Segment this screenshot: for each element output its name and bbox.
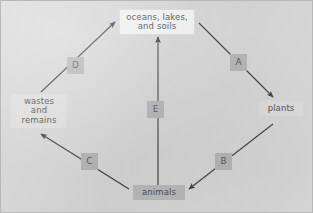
- arrow-label-a: A: [230, 54, 247, 71]
- node-animals: animals: [133, 185, 185, 200]
- node-wastes-and-remains: wastes and remains: [11, 94, 67, 128]
- arrow-label-e: E: [147, 101, 164, 118]
- arrow-label-d: D: [67, 57, 84, 74]
- node-oceans-lakes-and-soils: oceans, lakes, and soils: [119, 9, 195, 35]
- arrow-label-b: B: [215, 153, 232, 170]
- arrow-label-c: C: [81, 153, 98, 170]
- diagram-figure: oceans, lakes, and soils wastes and rema…: [0, 0, 313, 213]
- node-plants: plants: [259, 101, 303, 116]
